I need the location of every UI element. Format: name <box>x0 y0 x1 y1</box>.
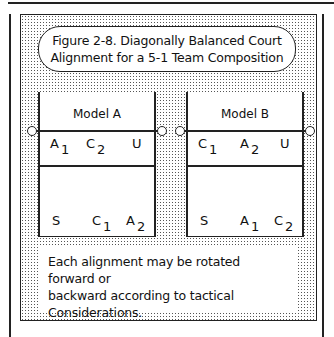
position-front-left: A1 <box>50 136 69 157</box>
net-line <box>32 130 162 132</box>
figure-title: Figure 2-8. Diagonally Balanced Court Al… <box>38 26 296 72</box>
note-line-3: Considerations. <box>48 304 286 321</box>
position-back-right: C2 <box>274 213 293 234</box>
court-label: Model B <box>188 107 302 121</box>
left-rule <box>9 14 11 337</box>
position-back-right: A2 <box>126 213 145 234</box>
position-back-left: S <box>200 213 208 228</box>
title-line-1: Figure 2-8. Diagonally Balanced Court <box>39 32 295 49</box>
title-line-2: Alignment for a 5-1 Team Composition <box>39 49 295 66</box>
note-line-1: Each alignment may be rotated forward or <box>48 253 286 287</box>
position-back-center: A1 <box>240 213 259 234</box>
court-label: Model A <box>40 107 154 121</box>
position-front-center: A2 <box>240 136 259 157</box>
position-front-right: U <box>132 136 142 151</box>
net-post-icon <box>27 126 37 136</box>
court-model-a: Model A A1 C2 U S C1 A2 <box>38 92 156 237</box>
net-post-icon <box>157 126 167 136</box>
net-line <box>180 130 310 132</box>
net-post-icon <box>305 126 315 136</box>
court-model-b: Model B C1 A2 U S A1 C2 <box>186 92 304 237</box>
position-front-right: U <box>280 136 290 151</box>
caption-note: Each alignment may be rotated forward or… <box>38 247 296 311</box>
top-rule <box>8 2 334 4</box>
attack-line <box>40 165 154 167</box>
right-rule <box>322 14 324 337</box>
note-line-2: backward according to tactical <box>48 287 286 304</box>
position-front-center: C2 <box>86 136 105 157</box>
position-back-center: C1 <box>92 213 111 234</box>
net-post-icon <box>175 126 185 136</box>
position-back-left: S <box>52 213 60 228</box>
attack-line <box>188 165 302 167</box>
position-front-left: C1 <box>198 136 217 157</box>
